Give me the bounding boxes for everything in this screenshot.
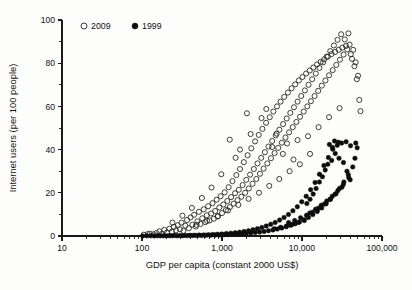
data-point-1999 <box>290 222 295 227</box>
data-point-2009 <box>219 172 224 177</box>
data-point-1999 <box>355 146 360 151</box>
data-point-2009 <box>271 109 276 114</box>
data-point-2009 <box>255 161 260 166</box>
x-tick-label: 10,000 <box>289 243 316 253</box>
data-point-1999 <box>354 141 359 146</box>
data-point-1999 <box>334 191 339 196</box>
data-point-1999 <box>353 156 358 161</box>
data-point-2009 <box>199 195 204 200</box>
x-tick-label: 10 <box>57 243 67 253</box>
data-point-1999 <box>351 165 356 170</box>
data-point-2009 <box>280 151 285 156</box>
data-point-2009 <box>226 185 231 190</box>
data-point-2009 <box>250 181 255 186</box>
data-point-2009 <box>290 125 295 130</box>
data-point-2009 <box>222 190 227 195</box>
data-point-1999 <box>304 213 309 218</box>
data-point-2009 <box>180 213 185 218</box>
data-point-1999 <box>296 220 301 225</box>
data-point-2009 <box>256 190 261 195</box>
data-point-2009 <box>253 139 258 144</box>
legend-label-2009: 2009 <box>91 21 111 31</box>
data-point-2009 <box>287 130 292 135</box>
data-point-2009 <box>327 73 332 78</box>
data-point-2009 <box>291 157 296 162</box>
data-point-2009 <box>313 71 318 76</box>
data-point-2009 <box>256 132 261 137</box>
legend-label-1999: 1999 <box>142 21 162 31</box>
data-point-1999 <box>340 185 345 190</box>
data-point-1999 <box>311 192 316 197</box>
data-point-2009 <box>240 182 245 187</box>
data-point-2009 <box>305 104 310 109</box>
data-point-1999 <box>322 202 327 207</box>
data-point-2009 <box>201 207 206 212</box>
data-point-2009 <box>339 32 344 37</box>
data-point-2009 <box>259 155 264 160</box>
data-point-2009 <box>188 215 193 220</box>
data-point-2009 <box>265 161 270 166</box>
data-point-1999 <box>295 204 300 209</box>
data-point-1999 <box>272 226 277 231</box>
data-point-2009 <box>183 223 188 228</box>
data-point-1999 <box>310 210 315 215</box>
data-point-2009 <box>327 115 332 120</box>
data-point-2009 <box>308 99 313 104</box>
data-point-2009 <box>297 162 302 167</box>
data-point-2009 <box>260 126 265 131</box>
data-point-1999 <box>348 178 353 183</box>
data-point-1999 <box>320 175 325 180</box>
data-point-1999 <box>329 158 334 163</box>
data-point-2009 <box>259 116 264 121</box>
data-point-2009 <box>335 37 340 42</box>
data-point-2009 <box>301 109 306 114</box>
data-point-2009 <box>284 141 289 146</box>
y-axis-title: Internet users (per 100 people) <box>7 64 18 193</box>
data-point-2009 <box>249 146 254 151</box>
data-point-2009 <box>351 47 356 52</box>
data-point-1999 <box>317 180 322 185</box>
data-point-1999 <box>140 234 145 239</box>
data-point-1999 <box>304 194 309 199</box>
data-point-1999 <box>308 188 313 193</box>
data-point-2009 <box>279 140 284 145</box>
data-point-2009 <box>246 196 251 201</box>
data-point-2009 <box>346 31 351 36</box>
data-point-2009 <box>267 183 272 188</box>
data-point-2009 <box>287 169 292 174</box>
data-point-2009 <box>261 166 266 171</box>
data-point-2009 <box>243 190 248 195</box>
data-point-2009 <box>236 202 241 207</box>
data-point-2009 <box>282 94 287 99</box>
data-point-1999 <box>305 201 310 206</box>
data-point-2009 <box>345 47 350 52</box>
data-point-2009 <box>306 82 311 87</box>
data-point-2009 <box>233 155 238 160</box>
data-point-2009 <box>237 166 242 171</box>
y-tick-label: 80 <box>45 58 55 68</box>
legend: 20091999 <box>81 21 162 31</box>
data-point-1999 <box>333 151 338 156</box>
data-point-2009 <box>337 57 342 62</box>
data-point-1999 <box>264 224 269 229</box>
data-point-2009 <box>299 93 304 98</box>
data-point-2009 <box>209 185 214 190</box>
data-point-2009 <box>241 160 246 165</box>
y-tick-label: 40 <box>45 145 55 155</box>
data-point-2009 <box>328 49 333 54</box>
x-tick-label: 100,000 <box>366 243 397 253</box>
data-point-2009 <box>248 172 253 177</box>
data-point-1999 <box>273 220 278 225</box>
data-point-2009 <box>237 147 242 152</box>
x-tick-label: 1,000 <box>211 243 233 253</box>
data-point-2009 <box>248 132 253 137</box>
y-tick-label: 0 <box>50 231 55 241</box>
data-point-2009 <box>356 73 361 78</box>
data-point-2009 <box>267 115 272 120</box>
data-point-2009 <box>342 37 347 42</box>
data-point-2009 <box>230 179 235 184</box>
data-point-1999 <box>337 156 342 161</box>
data-point-1999 <box>284 224 289 229</box>
data-point-2009 <box>278 99 283 104</box>
data-point-1999 <box>328 197 333 202</box>
